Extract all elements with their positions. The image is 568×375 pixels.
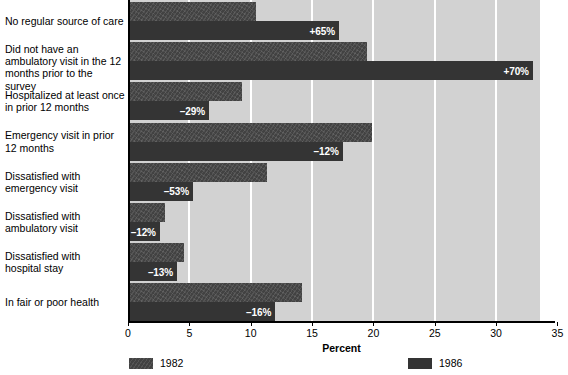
category-label-line: 12 months [5, 142, 126, 154]
x-tick-label-30: 30 [476, 327, 516, 339]
x-axis-title: Percent [128, 342, 555, 354]
category-label-line: months prior to the survey [5, 67, 126, 91]
x-tick-label-15: 15 [292, 327, 332, 339]
bar-change-label-4: –53% [164, 186, 189, 197]
series-1986-swatch [408, 358, 432, 369]
bar-1982-group-2 [128, 82, 242, 101]
bar-change-label-6: –13% [148, 266, 173, 277]
category-label-5: Dissatisfied withambulatory visit [5, 210, 126, 234]
bar-1986-group-4: –53% [128, 182, 193, 201]
bar-1982-group-5 [128, 203, 165, 222]
bar-change-label-3: –12% [314, 146, 339, 157]
bar-1982-group-4 [128, 163, 267, 182]
x-tick-mark-35 [557, 322, 558, 326]
legend-entry-1982: 1982 [129, 356, 183, 370]
category-label-line: ambulatory visit in the 12 [5, 55, 126, 67]
bar-1982-group-0 [128, 2, 256, 21]
gridline-20 [372, 0, 374, 322]
bar-1982-group-7 [128, 283, 302, 302]
category-label-0: No regular source of care [5, 15, 126, 27]
legend-entry-1986: 1986 [408, 356, 462, 370]
category-label-2: Hospitalized at least oncein prior 12 mo… [5, 89, 126, 113]
category-label-line: No regular source of care [5, 15, 126, 27]
chart-legend: 19821986 [0, 356, 555, 375]
y-axis-line [128, 0, 130, 322]
bar-change-label-5: –12% [131, 226, 156, 237]
bar-1986-group-5: –12% [128, 222, 160, 241]
bar-1986-group-1: +70% [128, 61, 533, 80]
x-tick-label-5: 5 [169, 327, 209, 339]
plot-area: +65%+70%–29%–12%–53%–12%–13%–16% [128, 0, 540, 322]
category-label-line: Did not have an [5, 43, 126, 55]
category-label-line: Emergency visit in prior [5, 129, 126, 141]
bar-change-label-7: –16% [246, 306, 271, 317]
category-label-line: ambulatory visit [5, 222, 126, 234]
category-label-3: Emergency visit in prior12 months [5, 129, 126, 153]
bar-1986-group-6: –13% [128, 262, 177, 281]
category-label-4: Dissatisfied withemergency visit [5, 170, 126, 194]
x-tick-label-20: 20 [353, 327, 393, 339]
bar-1986-group-3: –12% [128, 142, 343, 161]
x-tick-label-25: 25 [415, 327, 455, 339]
bar-1982-group-3 [128, 123, 372, 142]
bar-1986-group-0: +65% [128, 21, 339, 40]
category-label-6: Dissatisfied withhospital stay [5, 250, 126, 274]
category-label-line: In fair or poor health [5, 296, 126, 308]
x-tick-label-0: 0 [108, 327, 148, 339]
category-label-line: Hospitalized at least once [5, 89, 126, 101]
series-1982-swatch [129, 358, 153, 369]
gridline-30 [495, 0, 497, 322]
x-tick-label-10: 10 [231, 327, 271, 339]
gridline-25 [434, 0, 436, 322]
x-axis-line [128, 321, 555, 323]
category-label-line: Dissatisfied with [5, 210, 126, 222]
bar-change-label-1: +70% [503, 65, 528, 76]
bar-change-label-0: +65% [310, 25, 335, 36]
category-label-7: In fair or poor health [5, 296, 126, 308]
category-axis: No regular source of careDid not have an… [0, 0, 126, 322]
category-label-1: Did not have anambulatory visit in the 1… [5, 43, 126, 92]
legend-label-1986: 1986 [439, 357, 462, 369]
category-label-line: Dissatisfied with [5, 250, 126, 262]
category-label-line: emergency visit [5, 182, 126, 194]
bar-1986-group-7: –16% [128, 302, 275, 321]
bar-1982-group-6 [128, 243, 184, 262]
category-label-line: hospital stay [5, 262, 126, 274]
category-label-line: Dissatisfied with [5, 170, 126, 182]
x-tick-label-35: 35 [537, 327, 568, 339]
legend-label-1982: 1982 [160, 357, 183, 369]
category-label-line: in prior 12 months [5, 101, 126, 113]
x-axis: 05101520253035 [0, 322, 555, 344]
bar-1982-group-1 [128, 42, 367, 61]
bar-1986-group-2: –29% [128, 101, 209, 120]
bar-change-label-2: –29% [180, 105, 205, 116]
